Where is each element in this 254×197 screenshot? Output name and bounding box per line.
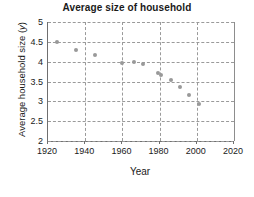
x-axis-tick-labels: 192019401960198020002020 [0, 146, 254, 160]
chart-title: Average size of household [0, 2, 254, 13]
data-point [169, 78, 173, 82]
data-point [132, 60, 136, 64]
gridline-vertical [122, 22, 123, 141]
y-axis-tick-label: 4 [3, 57, 43, 67]
data-point [120, 61, 124, 65]
y-axis-tick-label: 3 [3, 96, 43, 106]
x-axis-tick-mark [196, 141, 197, 144]
data-point [178, 85, 182, 89]
data-point [159, 73, 163, 77]
y-axis-tick-labels: 22.533.544.55 [0, 22, 43, 141]
gridline-horizontal [48, 101, 234, 102]
data-point [55, 40, 59, 44]
y-axis-tick-label: 2.5 [3, 116, 43, 126]
gridline-vertical [160, 22, 161, 141]
x-axis-tick-label: 1980 [139, 146, 179, 156]
gridline-vertical [85, 22, 86, 141]
x-axis-tick-mark [121, 141, 122, 144]
x-axis-tick-label: 1920 [27, 146, 67, 156]
x-axis-tick-mark [159, 141, 160, 144]
data-point [141, 62, 145, 66]
data-point [93, 53, 97, 57]
data-point [187, 93, 191, 97]
x-axis-tick-mark [233, 141, 234, 144]
chart-figure: Average size of household Average househ… [0, 0, 254, 197]
x-axis-tick-label: 1940 [64, 146, 104, 156]
x-axis-tick-label: 2000 [176, 146, 216, 156]
x-axis-tick-mark [84, 141, 85, 144]
y-axis-tick-label: 5 [3, 17, 43, 27]
x-axis-tick-label: 2020 [213, 146, 253, 156]
y-axis-tick-label: 4.5 [3, 37, 43, 47]
gridline-horizontal [48, 82, 234, 83]
gridline-vertical [197, 22, 198, 141]
gridline-horizontal [48, 22, 234, 23]
gridline-horizontal [48, 121, 234, 122]
data-point [74, 48, 78, 52]
gridline-vertical [234, 22, 235, 141]
plot-area [47, 22, 234, 142]
y-axis-tick-label: 3.5 [3, 77, 43, 87]
gridline-horizontal [48, 42, 234, 43]
data-point [197, 102, 201, 106]
x-axis-tick-mark [47, 141, 48, 144]
x-axis-title: Year [47, 166, 233, 177]
gridline-horizontal [48, 141, 234, 142]
x-axis-tick-label: 1960 [101, 146, 141, 156]
y-axis-tick-label: 2 [3, 136, 43, 146]
